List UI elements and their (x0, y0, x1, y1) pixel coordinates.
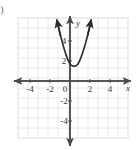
answer-choice-label: ) (0, 1, 12, 17)
y-axis-label: y (75, 18, 80, 28)
x-tick-label-neg4: -4 (26, 84, 34, 94)
y-tick-label-neg2: -2 (60, 96, 68, 106)
y-tick-label-2: 2 (62, 56, 67, 66)
graph-figure: ) (0, 0, 140, 150)
origin-label: 0 (63, 84, 68, 94)
x-tick-label-neg2: -2 (46, 84, 54, 94)
x-tick-label-2: 2 (88, 84, 93, 94)
grid-panel (18, 18, 128, 138)
x-axis-label: x (125, 83, 130, 93)
y-tick-label-4: 4 (62, 36, 67, 46)
coordinate-plane-svg: -4 -2 0 2 4 4 2 -2 -4 y x (0, 0, 140, 150)
x-tick-label-4: 4 (108, 84, 113, 94)
y-tick-label-neg4: -4 (60, 116, 68, 126)
